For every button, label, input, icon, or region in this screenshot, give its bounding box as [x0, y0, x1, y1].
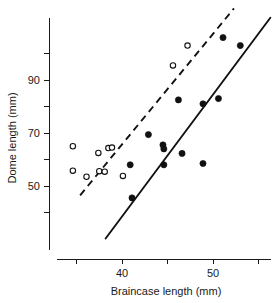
- y-axis: 507090: [28, 18, 49, 250]
- data-point-open: [84, 174, 89, 179]
- dashed-regression-line: [80, 8, 234, 195]
- y-tick-label: 50: [28, 180, 40, 192]
- data-point-filled: [179, 150, 185, 156]
- data-point-filled: [129, 195, 135, 201]
- solid-regression-line: [106, 18, 271, 239]
- x-axis-tick-labels: 4050: [116, 267, 219, 279]
- data-point-filled: [220, 35, 226, 41]
- x-axis-tick-marks: [77, 259, 259, 264]
- x-tick-label: 50: [207, 267, 219, 279]
- data-point-filled: [200, 101, 206, 107]
- data-point-open: [102, 169, 107, 174]
- data-point-open: [120, 173, 125, 178]
- data-point-open: [70, 144, 75, 149]
- data-point-open: [70, 168, 75, 173]
- plot-canvas: 507090 4050 Braincase length (mm) Dome l…: [0, 0, 280, 303]
- data-point-filled: [161, 162, 167, 168]
- x-axis: 4050: [57, 259, 271, 279]
- data-point-open: [185, 43, 190, 48]
- data-point-open: [109, 145, 114, 150]
- data-point-filled: [145, 131, 151, 137]
- open-circle-data-points: [70, 43, 190, 180]
- data-point-open: [170, 63, 175, 68]
- data-point-filled: [161, 146, 167, 152]
- scatter-plot-figure: 507090 4050 Braincase length (mm) Dome l…: [0, 0, 280, 303]
- data-point-open: [97, 168, 102, 173]
- data-point-filled: [175, 97, 181, 103]
- y-axis-tick-marks: [44, 54, 49, 213]
- x-axis-title: Braincase length (mm): [111, 285, 222, 297]
- data-point-filled: [200, 160, 206, 166]
- data-point-filled: [215, 95, 221, 101]
- x-tick-label: 40: [116, 267, 128, 279]
- data-point-filled: [127, 162, 133, 168]
- y-tick-label: 70: [28, 127, 40, 139]
- y-tick-label: 90: [28, 74, 40, 86]
- y-axis-title: Dome length (mm): [6, 92, 18, 183]
- y-axis-tick-labels: 507090: [28, 74, 40, 192]
- data-point-filled: [237, 42, 243, 48]
- data-point-open: [96, 150, 101, 155]
